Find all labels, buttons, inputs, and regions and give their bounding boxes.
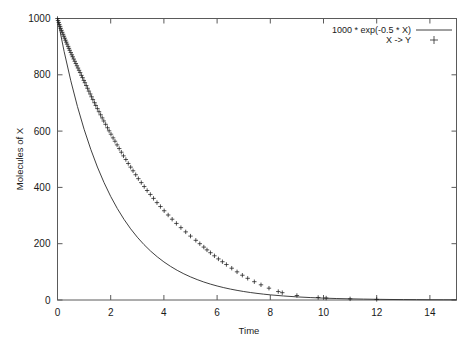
x-tick-label-5: 10 xyxy=(318,307,330,318)
y-tick-label-3: 600 xyxy=(34,126,51,137)
chart-figure: 02468101214 02004006008001000 Time Molec… xyxy=(0,0,470,348)
plot-frame xyxy=(58,19,457,301)
y-tick-label-2: 400 xyxy=(34,182,51,193)
exponential-decay-plot: 02468101214 02004006008001000 Time Molec… xyxy=(0,0,470,348)
x-axis-ticks: 02468101214 xyxy=(55,19,436,319)
legend-label-1: X -> Y xyxy=(386,35,411,45)
x-tick-label-7: 14 xyxy=(424,307,436,318)
x-tick-label-6: 12 xyxy=(371,307,383,318)
x-tick-label-0: 0 xyxy=(55,307,61,318)
y-axis-label: Molecules of X xyxy=(14,127,25,190)
data-point-markers xyxy=(55,16,379,301)
y-axis-ticks: 02004006008001000 xyxy=(28,13,456,306)
x-axis-label: Time xyxy=(239,325,260,336)
y-tick-label-0: 0 xyxy=(45,295,51,306)
x-tick-label-3: 6 xyxy=(214,307,220,318)
x-tick-label-2: 4 xyxy=(161,307,167,318)
y-tick-label-1: 200 xyxy=(34,238,51,249)
y-tick-label-5: 1000 xyxy=(28,13,51,24)
x-tick-label-4: 8 xyxy=(268,307,274,318)
series-fit-curve xyxy=(58,19,457,300)
y-tick-label-4: 800 xyxy=(34,69,51,80)
legend-sample-plus-icon xyxy=(430,36,438,44)
x-tick-label-1: 2 xyxy=(108,307,114,318)
legend-label-0: 1000 * exp(-0.5 * X) xyxy=(332,25,411,35)
plot-data xyxy=(55,16,456,301)
series-data-points xyxy=(55,16,379,301)
chart-legend: 1000 * exp(-0.5 * X) X -> Y xyxy=(332,25,452,45)
